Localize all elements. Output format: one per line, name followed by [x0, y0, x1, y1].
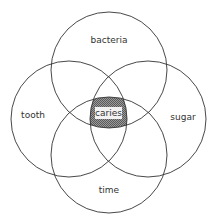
set-label-bacteria: bacteria [91, 35, 128, 45]
venn-diagram: bacteria tooth sugar time caries [0, 0, 217, 223]
intersection-label-caries: caries [95, 108, 122, 118]
set-label-tooth: tooth [21, 110, 45, 120]
set-label-time: time [99, 185, 120, 195]
set-label-sugar: sugar [170, 112, 196, 122]
